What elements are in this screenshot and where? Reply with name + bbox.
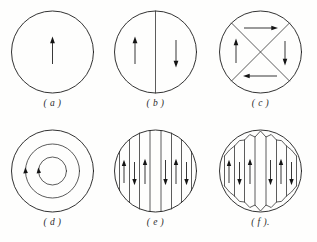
panel-d-caption: ( d ) bbox=[0, 217, 105, 227]
stripe-arrow-6 bbox=[289, 162, 293, 185]
outer-circle bbox=[220, 130, 302, 212]
stripe-arrow-1 bbox=[227, 160, 231, 183]
stripe-arrow-4 bbox=[163, 160, 167, 185]
panel-c: ( c ) bbox=[208, 2, 313, 123]
panel-d-canvas bbox=[0, 121, 105, 221]
stripe-arrow-4 bbox=[268, 160, 272, 185]
arrow-down-right bbox=[283, 41, 288, 66]
arrow-up-center bbox=[50, 37, 55, 65]
panel-c-caption: ( c ) bbox=[208, 98, 313, 108]
stripe-arrow-5 bbox=[174, 159, 178, 184]
panel-e: ( e ) bbox=[103, 121, 208, 242]
arrow-up-left bbox=[234, 39, 239, 64]
panel-d: ( d ) bbox=[0, 121, 105, 242]
inner-ring bbox=[39, 157, 67, 185]
stripe-arrow-5 bbox=[279, 159, 283, 184]
arrow-right-top bbox=[244, 26, 278, 31]
stripe-arrow-1 bbox=[122, 160, 126, 183]
arrow-down-right bbox=[174, 40, 179, 68]
closure-domains-top bbox=[225, 131, 297, 156]
stripe-arrow-3 bbox=[248, 159, 252, 184]
panel-b-caption: ( b ) bbox=[103, 98, 208, 108]
stripe-arrow-2 bbox=[132, 162, 136, 185]
stripe-domain-walls bbox=[225, 137, 297, 205]
arrow-up-left bbox=[133, 37, 138, 65]
stripe-arrow-2 bbox=[237, 162, 241, 185]
panel-e-canvas bbox=[103, 121, 208, 221]
panel-b-canvas bbox=[103, 2, 208, 102]
panel-a-caption: ( a ) bbox=[0, 98, 105, 108]
panel-b: ( b ) bbox=[103, 2, 208, 123]
panel-a: ( a ) bbox=[0, 2, 105, 123]
panel-a-canvas bbox=[0, 2, 105, 102]
middle-ring bbox=[26, 144, 80, 198]
panel-f-canvas bbox=[208, 121, 313, 221]
panel-e-caption: ( e ) bbox=[103, 217, 208, 227]
closure-domains-bottom bbox=[225, 186, 297, 211]
panel-f: ( f ). bbox=[208, 121, 313, 242]
panel-c-canvas bbox=[208, 2, 313, 102]
panel-f-caption: ( f ). bbox=[208, 217, 313, 227]
outer-circle bbox=[12, 130, 94, 212]
stripe-domain-walls bbox=[120, 130, 192, 211]
arrowhead-middle-ring bbox=[23, 167, 28, 173]
outer-circle bbox=[115, 130, 197, 212]
arrow-left-bottom bbox=[243, 74, 277, 79]
figure-container: ( a ) ( b ) bbox=[0, 0, 317, 242]
stripe-arrow-6 bbox=[184, 162, 188, 185]
stripe-arrow-3 bbox=[143, 159, 147, 184]
